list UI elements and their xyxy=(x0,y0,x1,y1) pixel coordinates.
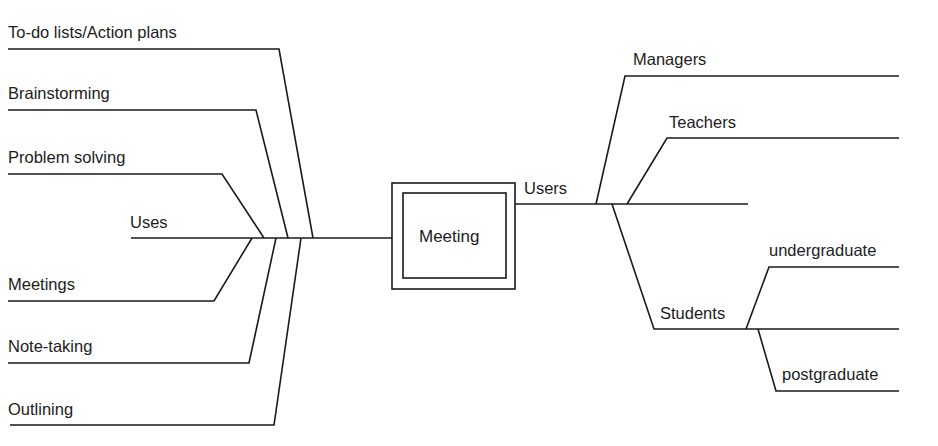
managers-branch-line xyxy=(596,76,899,204)
undergraduate-branch-line xyxy=(746,267,899,329)
todo-branch-line xyxy=(8,49,313,238)
todo-label: To-do lists/Action plans xyxy=(8,24,177,41)
meetings-label: Meetings xyxy=(8,276,75,293)
students-label: Students xyxy=(660,305,725,322)
managers-label: Managers xyxy=(633,51,706,68)
teachers-branch-line xyxy=(627,138,899,204)
outlining-branch-line xyxy=(10,238,301,425)
users-branch-label: Users xyxy=(524,180,567,197)
uses-branch-label: Uses xyxy=(130,214,168,231)
note-taking-label: Note-taking xyxy=(8,338,92,355)
teachers-label: Teachers xyxy=(669,114,736,131)
postgraduate-label: postgraduate xyxy=(782,366,878,383)
undergraduate-label: undergraduate xyxy=(769,242,876,259)
outlining-label: Outlining xyxy=(8,401,73,418)
center-node-label: Meeting xyxy=(419,228,479,245)
problem-solving-label: Problem solving xyxy=(8,149,125,166)
brainstorming-label: Brainstorming xyxy=(8,85,110,102)
